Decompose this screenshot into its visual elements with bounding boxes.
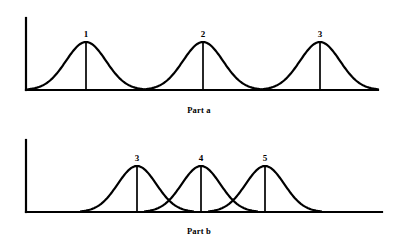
- curve-label-b-4: 4: [191, 153, 211, 163]
- figure-canvas: 1 2 3 Part a 3 4 5 Part b: [0, 0, 398, 250]
- curve-label-b-3: 3: [127, 153, 147, 163]
- curve-label-b-5: 5: [255, 153, 275, 163]
- curve-label-a-2: 2: [193, 29, 213, 39]
- caption-part-a: Part a: [0, 105, 398, 115]
- curve-label-a-1: 1: [76, 29, 96, 39]
- panel-part-a: 1 2 3 Part a: [0, 0, 398, 125]
- caption-part-b: Part b: [0, 226, 398, 236]
- curve-label-a-3: 3: [310, 29, 330, 39]
- panel-part-b: 3 4 5 Part b: [0, 125, 398, 250]
